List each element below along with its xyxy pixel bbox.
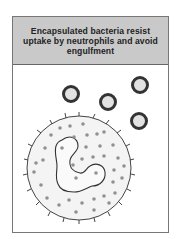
bacterium-icon [101, 95, 116, 110]
neutrophil-cell [23, 112, 135, 224]
bacterium-icon [64, 87, 79, 102]
illustration [0, 0, 182, 239]
bacterium-icon [132, 114, 147, 129]
bacterium-icon [133, 78, 148, 93]
